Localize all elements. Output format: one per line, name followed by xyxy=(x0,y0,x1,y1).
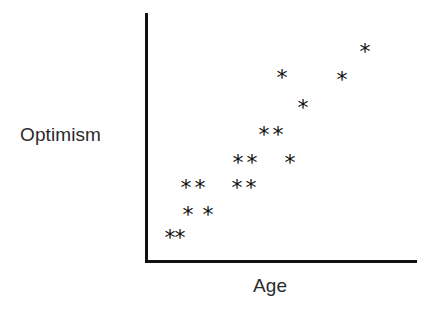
scatter-point-marker: * xyxy=(181,177,192,199)
scatter-point-marker: * xyxy=(195,177,206,199)
scatter-point-marker: * xyxy=(183,204,194,226)
scatter-point-marker: * xyxy=(298,97,309,119)
scatter-point-marker: * xyxy=(285,152,296,174)
scatter-point-marker: * xyxy=(246,177,257,199)
scatter-point-marker: * xyxy=(232,177,243,199)
scatter-point-marker: * xyxy=(247,152,258,174)
y-axis-line xyxy=(145,13,148,263)
x-axis-line xyxy=(145,260,417,263)
scatter-point-marker: * xyxy=(273,124,284,146)
scatter-point-marker: * xyxy=(360,41,371,63)
scatter-point-marker: * xyxy=(277,67,288,89)
scatter-point-marker: * xyxy=(233,152,244,174)
scatter-point-marker: * xyxy=(203,204,214,226)
scatter-plot-figure: Optimism Age ***************** xyxy=(0,0,443,311)
scatter-point-marker: * xyxy=(175,227,186,249)
scatter-point-marker: * xyxy=(337,69,348,91)
y-axis-label: Optimism xyxy=(20,124,101,146)
scatter-point-marker: * xyxy=(259,124,270,146)
x-axis-label: Age xyxy=(253,275,287,297)
